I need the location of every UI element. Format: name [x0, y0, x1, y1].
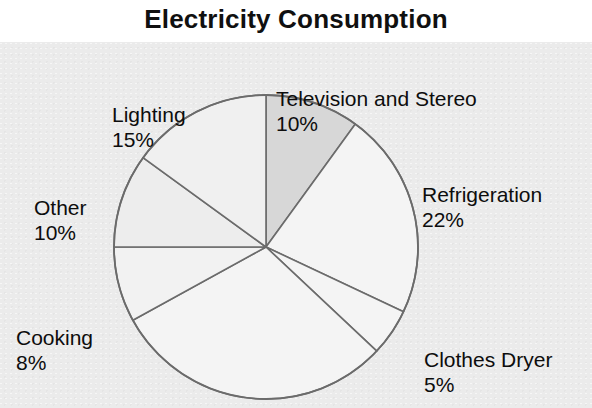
slice-label-clothes-dryer-percent: 5%	[424, 372, 552, 397]
slice-label-television: Television and Stereo 10%	[276, 86, 477, 136]
slice-label-clothes-dryer-name: Clothes Dryer	[424, 347, 552, 372]
slice-label-cooking: Cooking 8%	[16, 325, 93, 375]
slice-label-lighting: Lighting 15%	[112, 102, 186, 152]
pie-chart-page: Electricity Consumption Television and S…	[0, 0, 592, 408]
slice-label-other-name: Other	[34, 195, 87, 220]
slice-label-lighting-percent: 15%	[112, 127, 186, 152]
slice-label-television-name: Television and Stereo	[276, 86, 477, 111]
plot-area: Television and Stereo 10% Refrigeration …	[0, 42, 592, 408]
slice-label-other-percent: 10%	[34, 220, 87, 245]
slice-label-refrigeration-percent: 22%	[422, 207, 542, 232]
slice-label-refrigeration: Refrigeration 22%	[422, 182, 542, 232]
slice-label-television-percent: 10%	[276, 111, 477, 136]
slice-label-cooking-percent: 8%	[16, 350, 93, 375]
slice-label-lighting-name: Lighting	[112, 102, 186, 127]
slice-label-refrigeration-name: Refrigeration	[422, 182, 542, 207]
slice-label-other: Other 10%	[34, 195, 87, 245]
slice-label-cooking-name: Cooking	[16, 325, 93, 350]
page-title: Electricity Consumption	[0, 0, 592, 42]
slice-label-clothes-dryer: Clothes Dryer 5%	[424, 347, 552, 397]
